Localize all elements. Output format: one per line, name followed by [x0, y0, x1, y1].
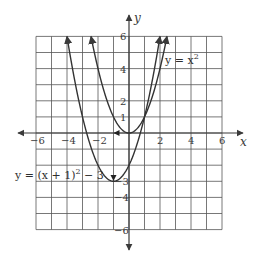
parabola-graph: x y −6−4−22466421−3−4−6 y = x2 y = (x + … — [0, 0, 257, 262]
x-tick-label: 4 — [188, 135, 194, 146]
y-tick-label: −4 — [114, 192, 129, 203]
arrow-left-icon — [114, 130, 120, 136]
x-tick-label: 2 — [157, 135, 163, 146]
x-tick-label: −4 — [61, 135, 76, 146]
label-y-equals-x-squared: y = x2 — [164, 52, 199, 67]
shift-markers — [111, 130, 120, 181]
y-tick-label: 1 — [120, 112, 126, 123]
y-tick-label: 2 — [120, 96, 126, 107]
y-tick-label: 6 — [120, 31, 126, 42]
axes: x y — [18, 11, 247, 250]
x-axis-label: x — [240, 135, 247, 149]
y-axis-label: y — [133, 11, 141, 25]
x-tick-label: −2 — [92, 135, 107, 146]
x-tick-label: 6 — [219, 135, 225, 146]
curves — [67, 36, 167, 181]
label-shifted-parabola: y = (x + 1)2 − 3 — [14, 167, 104, 182]
x-tick-label: −6 — [30, 135, 45, 146]
y-tick-label: −6 — [114, 225, 129, 236]
y-tick-label: 4 — [120, 64, 126, 75]
